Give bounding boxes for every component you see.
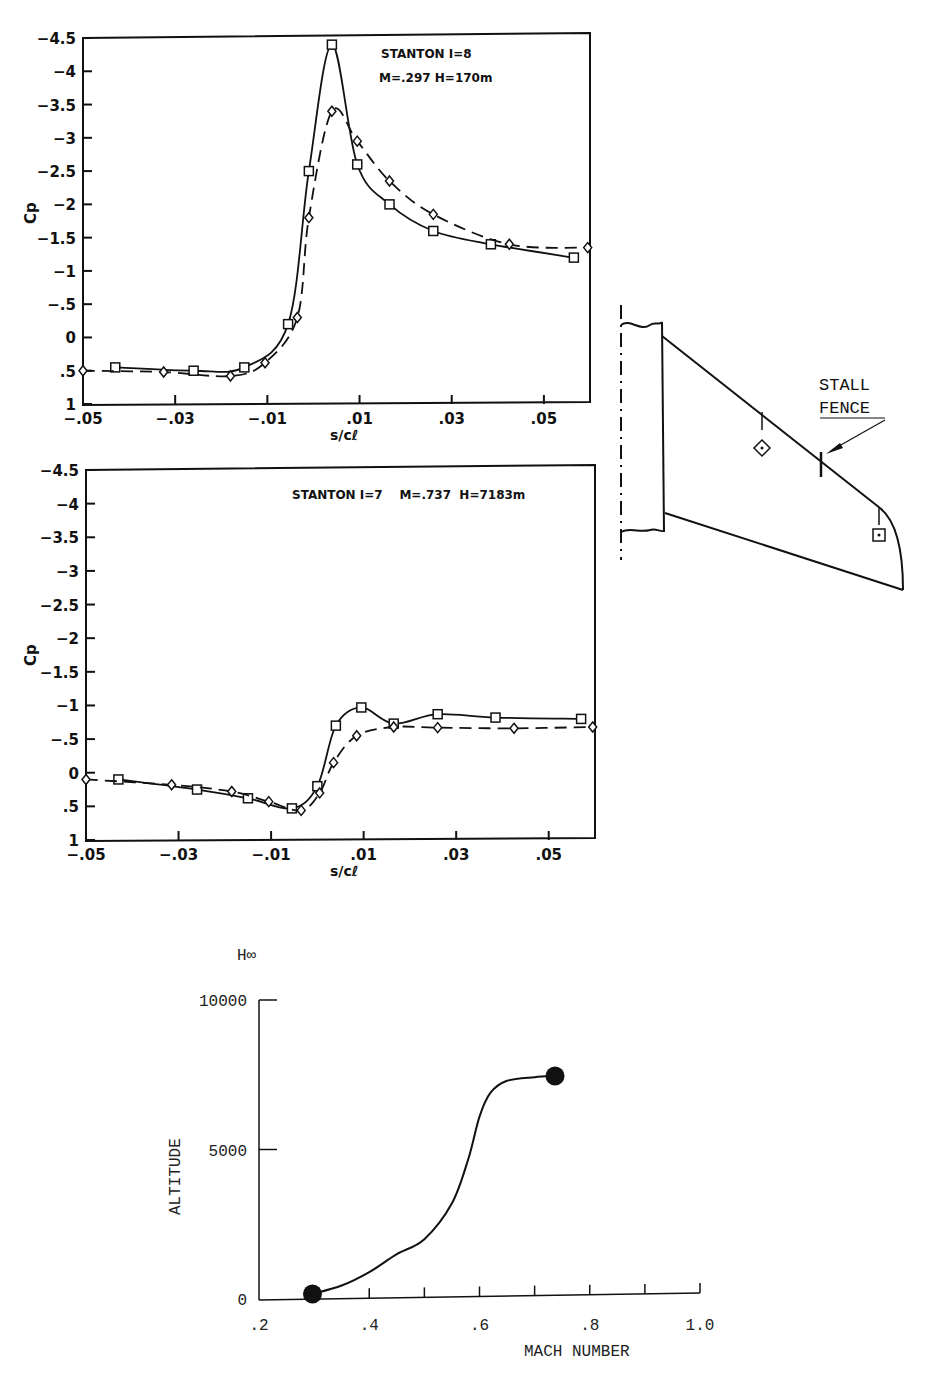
top-annotation-line1: STANTON I=8: [381, 47, 472, 61]
alt-x-tick-label: .4: [360, 1317, 379, 1335]
diamond-marker: [510, 723, 518, 733]
square-marker: [193, 785, 202, 794]
y-tick-label: −4.5: [40, 462, 79, 480]
diamond-marker: [168, 780, 176, 790]
bottom-y-axis-label: Cp: [22, 644, 40, 666]
y-tick-label: −1.5: [37, 230, 76, 248]
bottom-x-axis-ticks: −.05−.03−.01.01.03.05: [66, 831, 562, 864]
alt-y-tick-label: 5000: [209, 1143, 247, 1161]
diamond-marker: [79, 366, 87, 376]
square-marker: [577, 714, 586, 723]
alt-axis-ticks: 0500010000.2.4.6.81.0: [199, 993, 714, 1335]
alt-y-tick-label: 10000: [199, 993, 247, 1011]
diamond-marker: [353, 731, 361, 741]
y-tick-label: −2.5: [37, 163, 76, 181]
alt-x-tick-label: .8: [580, 1317, 599, 1335]
y-tick-label: −1.5: [40, 664, 79, 682]
y-tick-label: −4.5: [37, 30, 76, 48]
square-marker: [491, 713, 500, 722]
bottom-plot-series: [82, 703, 597, 815]
y-tick-label: .5: [63, 798, 79, 816]
top-x-axis-ticks: −.05−.03−.01.01.03.05: [63, 395, 557, 428]
square-marker: [569, 253, 578, 262]
alt-x-tick-label: .6: [470, 1317, 489, 1335]
alt-x-tick-label: 1.0: [686, 1317, 715, 1335]
top-plot-series: [79, 40, 592, 381]
altitude-mach-plot: 0500010000.2.4.6.81.0 H∞ ALTITUDE MACH N…: [167, 947, 714, 1361]
alt-y-tick-label: 0: [237, 1292, 247, 1310]
wing-tip: [880, 508, 903, 590]
alt-curve: [312, 1076, 555, 1294]
alt-x-tick-label: .2: [249, 1317, 268, 1335]
x-tick-label: .05: [535, 846, 562, 864]
diamond-marker: [434, 723, 442, 733]
square-marker: [304, 167, 313, 176]
y-tick-label: −2: [56, 630, 79, 648]
top-x-axis-label: s/cℓ: [330, 427, 358, 443]
square-marker: [284, 320, 293, 329]
square-marker: [114, 775, 123, 784]
fuselage-break-bottom: [621, 529, 664, 532]
x-tick-label: .05: [531, 410, 558, 428]
top-plot-frame: [83, 33, 590, 405]
alt-unit-label: H∞: [237, 947, 257, 965]
y-tick-label: −3.5: [40, 529, 79, 547]
top-cp-plot: −4.5−4−3.5−3−2.5−2−1.5−1−.50.51 −.05−.03…: [22, 30, 592, 443]
alt-x-axis-label: MACH NUMBER: [524, 1343, 630, 1361]
square-marker: [189, 366, 198, 375]
diamond-marker: [429, 209, 437, 219]
x-tick-label: .03: [443, 846, 470, 864]
alt-endpoints: [303, 1066, 565, 1303]
top-annotation-line2: M=.297 H=170m: [379, 71, 492, 85]
series-line: [118, 707, 581, 808]
stall-label: STALL: [819, 376, 870, 395]
x-tick-label: −.01: [248, 410, 287, 428]
wing-root: [662, 322, 664, 532]
flight-condition-point: [303, 1284, 322, 1303]
figure-canvas: −4.5−4−3.5−3−2.5−2−1.5−1−.50.51 −.05−.03…: [0, 0, 925, 1379]
wing-planform-diagram: [621, 305, 903, 590]
series-line: [86, 726, 593, 810]
y-tick-label: −.5: [47, 296, 76, 314]
series-line: [115, 45, 574, 372]
square-marker: [385, 200, 394, 209]
x-tick-label: .03: [438, 410, 465, 428]
diamond-marker: [305, 213, 313, 223]
square-marker: [287, 804, 296, 813]
arrowhead-icon: [826, 443, 843, 454]
y-tick-label: −3.5: [37, 97, 76, 115]
fence-label: FENCE: [819, 399, 870, 418]
top-y-axis-label: Cp: [22, 202, 40, 224]
x-tick-label: −.05: [63, 410, 102, 428]
x-tick-label: −.03: [156, 410, 195, 428]
diamond-marker: [160, 367, 168, 377]
x-tick-label: −.03: [159, 846, 198, 864]
y-tick-label: −3: [56, 563, 79, 581]
square-marker: [331, 721, 340, 730]
y-tick-label: .5: [60, 363, 76, 381]
x-tick-label: .01: [346, 410, 373, 428]
y-tick-label: −1: [53, 263, 76, 281]
y-tick-label: −4: [53, 63, 76, 81]
y-tick-label: 0: [69, 765, 79, 783]
bottom-cp-plot: −4.5−4−3.5−3−2.5−2−1.5−1−.50.51 −.05−.03…: [22, 462, 597, 879]
y-tick-label: −3: [53, 130, 76, 148]
square-marker: [433, 710, 442, 719]
y-tick-label: 0: [66, 329, 76, 347]
y-tick-label: −.5: [50, 731, 79, 749]
x-tick-label: −.01: [252, 846, 291, 864]
diamond-marker: [293, 312, 301, 322]
flight-condition-point: [546, 1066, 565, 1085]
y-tick-label: −4: [56, 496, 79, 514]
wing-leading-edge: [662, 336, 880, 508]
square-marker: [327, 40, 336, 49]
y-tick-label: −2.5: [40, 597, 79, 615]
square-marker: [353, 160, 362, 169]
square-marker: [429, 226, 438, 235]
alt-y-axis-label: ALTITUDE: [167, 1138, 185, 1215]
x-tick-label: −.05: [66, 846, 105, 864]
square-marker: [240, 363, 249, 372]
square-marker: [357, 703, 366, 712]
fuselage-break-top: [621, 322, 662, 327]
bottom-annotation: STANTON I=7 M=.737 H=7183m: [292, 488, 525, 502]
